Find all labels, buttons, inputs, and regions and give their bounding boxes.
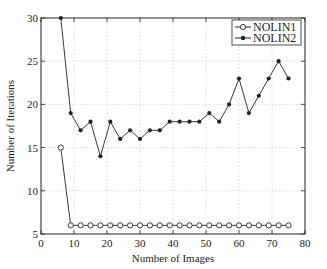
open-circle-marker-icon [147,223,152,228]
x-tick-label: 40 [168,237,180,249]
open-circle-marker-icon [68,223,73,228]
filled-dot-marker-icon [241,36,245,40]
x-axis-label: Number of Images [132,252,214,264]
open-circle-marker-icon [217,223,222,228]
y-axis-label: Number of Iterations [4,80,16,172]
legend-label-nolin2: NOLIN2 [253,31,296,45]
filled-dot-marker-icon [237,76,241,80]
open-circle-marker-icon [58,145,63,150]
y-tick-label: 15 [27,142,39,154]
open-circle-marker-icon [227,223,232,228]
x-tick-label: 60 [234,237,246,249]
filled-dot-marker-icon [138,137,142,141]
open-circle-marker-icon [286,223,291,228]
open-circle-marker-icon [240,24,245,29]
y-tick-label: 10 [27,185,39,197]
filled-dot-marker-icon [217,120,221,124]
filled-dot-marker-icon [128,128,132,132]
line-chart: 0102030405060708051015202530 Number of I… [0,0,327,269]
open-circle-marker-icon [78,223,83,228]
filled-dot-marker-icon [158,128,162,132]
open-circle-marker-icon [88,223,93,228]
open-circle-marker-icon [197,223,202,228]
filled-dot-marker-icon [118,137,122,141]
open-circle-marker-icon [137,223,142,228]
y-tick-label: 30 [27,12,39,24]
open-circle-marker-icon [207,223,212,228]
y-tick-label: 20 [27,98,39,110]
x-tick-label: 80 [300,237,312,249]
x-tick-label: 50 [201,237,213,249]
filled-dot-marker-icon [277,59,281,63]
y-tick-label: 5 [33,228,39,240]
filled-dot-marker-icon [79,128,83,132]
filled-dot-marker-icon [168,120,172,124]
x-tick-label: 20 [102,237,114,249]
open-circle-marker-icon [256,223,261,228]
x-tick-label: 10 [69,237,81,249]
filled-dot-marker-icon [187,120,191,124]
open-circle-marker-icon [276,223,281,228]
open-circle-marker-icon [108,223,113,228]
open-circle-marker-icon [167,223,172,228]
plot-series [58,16,291,228]
open-circle-marker-icon [157,223,162,228]
filled-dot-marker-icon [88,120,92,124]
filled-dot-marker-icon [197,120,201,124]
filled-dot-marker-icon [148,128,152,132]
filled-dot-marker-icon [69,111,73,115]
legend: NOLIN1 NOLIN2 [232,20,301,45]
y-tick-label: 25 [27,55,39,67]
filled-dot-marker-icon [108,120,112,124]
grid-lines [41,18,305,234]
series-line-nolin1 [61,148,289,226]
filled-dot-marker-icon [98,154,102,158]
filled-dot-marker-icon [257,94,261,98]
filled-dot-marker-icon [207,111,211,115]
x-tick-label: 0 [38,237,44,249]
x-tick-label: 30 [135,237,147,249]
filled-dot-marker-icon [286,76,290,80]
open-circle-marker-icon [236,223,241,228]
filled-dot-marker-icon [178,120,182,124]
filled-dot-marker-icon [267,76,271,80]
open-circle-marker-icon [177,223,182,228]
open-circle-marker-icon [187,223,192,228]
open-circle-marker-icon [128,223,133,228]
open-circle-marker-icon [98,223,103,228]
open-circle-marker-icon [266,223,271,228]
filled-dot-marker-icon [247,111,251,115]
open-circle-marker-icon [246,223,251,228]
x-tick-label: 70 [267,237,279,249]
open-circle-marker-icon [118,223,123,228]
filled-dot-marker-icon [227,102,231,106]
